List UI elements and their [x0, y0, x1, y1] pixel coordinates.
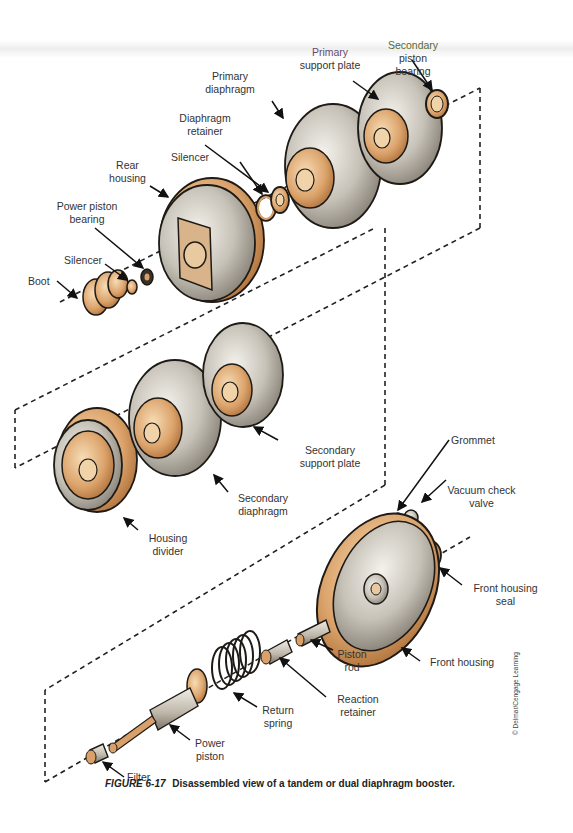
power-piston-bearing-part — [141, 269, 153, 285]
filter-part — [86, 744, 108, 764]
label-line: Secondary — [378, 39, 448, 52]
label-line: diaphragm — [195, 83, 265, 96]
primary-support-plate-part — [358, 72, 442, 184]
label-line: Silencer — [58, 254, 108, 267]
label-line: Power — [190, 737, 230, 750]
label-housing-divider: Housing divider — [143, 532, 193, 558]
label-boot: Boot — [28, 275, 50, 288]
label-line: support plate — [295, 457, 365, 470]
label-silencer-lower: Silencer — [58, 254, 108, 267]
reaction-retainer-part — [261, 640, 292, 664]
label-piston-rod: Piston rod — [332, 648, 372, 674]
label-line: Secondary — [295, 444, 365, 457]
return-spring-part — [212, 631, 260, 689]
label-line: Vacuum check — [444, 484, 519, 497]
label-line: Reaction — [328, 693, 388, 706]
secondary-support-plate-part — [203, 323, 283, 427]
label-line: bearing — [378, 65, 448, 78]
label-secondary-diaphragm: Secondary diaphragm — [233, 492, 293, 518]
figure-number: FIGURE 6-17 — [105, 778, 166, 789]
label-line: Return — [258, 704, 298, 717]
label-line: Front housing — [430, 656, 494, 669]
figure-caption-text: Disassembled view of a tandem or dual di… — [172, 778, 454, 789]
label-line: Front housing — [468, 582, 543, 595]
label-line: seal — [468, 595, 543, 608]
label-secondary-piston-bearing: Secondary piston bearing — [378, 39, 448, 78]
label-line: divider — [143, 545, 193, 558]
label-power-piston-bearing: Power piston bearing — [52, 200, 122, 226]
copyright-credit: © Delmar/Cengage Learning — [512, 652, 519, 735]
label-line: Secondary — [233, 492, 293, 505]
label-line: bearing — [52, 213, 122, 226]
label-line: valve — [444, 497, 519, 510]
label-return-spring: Return spring — [258, 704, 298, 730]
label-line: Silencer — [165, 151, 215, 164]
label-line: rod — [332, 661, 372, 674]
label-line: housing — [105, 172, 150, 185]
label-line: piston — [190, 750, 230, 763]
label-line: Diaphragm — [170, 112, 240, 125]
label-vacuum-check-valve: Vacuum check valve — [444, 484, 519, 510]
figure-caption: FIGURE 6-17 Disassembled view of a tande… — [105, 778, 455, 789]
label-reaction-retainer: Reaction retainer — [328, 693, 388, 719]
label-line: retainer — [328, 706, 388, 719]
label-primary-support-plate: Primary support plate — [290, 46, 370, 72]
housing-divider-part — [54, 408, 137, 512]
label-line: Grommet — [448, 434, 498, 447]
label-line: Piston — [332, 648, 372, 661]
label-line: diaphragm — [233, 505, 293, 518]
label-line: Power piston — [52, 200, 122, 213]
label-front-housing-seal: Front housing seal — [468, 582, 543, 608]
label-line: Housing — [143, 532, 193, 545]
secondary-piston-bearing-part — [426, 90, 448, 118]
label-line: retainer — [170, 125, 240, 138]
label-front-housing: Front housing — [430, 656, 494, 669]
label-diaphragm-retainer: Diaphragm retainer — [170, 112, 240, 138]
label-line: Boot — [28, 275, 50, 288]
label-line: Rear — [105, 159, 150, 172]
label-secondary-support-plate: Secondary support plate — [295, 444, 365, 470]
label-primary-diaphragm: Primary diaphragm — [195, 70, 265, 96]
boot-part — [83, 270, 128, 315]
label-line: Primary — [290, 46, 370, 59]
silencer-small-part — [127, 280, 137, 294]
label-power-piston: Power piston — [190, 737, 230, 763]
label-silencer-upper: Silencer — [165, 151, 215, 164]
diaphragm-retainer-part — [271, 187, 289, 213]
label-line: piston — [378, 52, 448, 65]
label-grommet: Grommet — [448, 434, 498, 447]
rear-housing-part — [159, 178, 264, 302]
label-line: support plate — [290, 59, 370, 72]
label-rear-housing: Rear housing — [105, 159, 150, 185]
label-line: spring — [258, 717, 298, 730]
label-line: Primary — [195, 70, 265, 83]
